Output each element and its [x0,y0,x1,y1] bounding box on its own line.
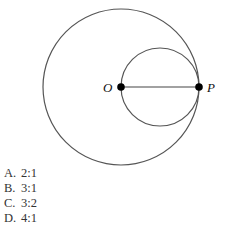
answer-options: A.2:1 B.3:1 C.3:2 D.4:1 [4,166,37,226]
option-letter: B. [4,181,21,196]
point-p [195,83,203,91]
circles-diagram: O P [0,0,228,168]
option-b[interactable]: B.3:1 [4,181,37,196]
option-letter: D. [4,211,21,226]
option-text: 4:1 [21,211,37,225]
option-letter: C. [4,196,21,211]
label-p: P [206,80,215,95]
point-o [117,83,125,91]
option-d[interactable]: D.4:1 [4,211,37,226]
option-text: 3:1 [21,181,37,195]
label-o: O [103,80,113,95]
option-text: 3:2 [21,196,37,210]
option-text: 2:1 [21,166,37,180]
option-letter: A. [4,166,21,181]
option-c[interactable]: C.3:2 [4,196,37,211]
option-a[interactable]: A.2:1 [4,166,37,181]
